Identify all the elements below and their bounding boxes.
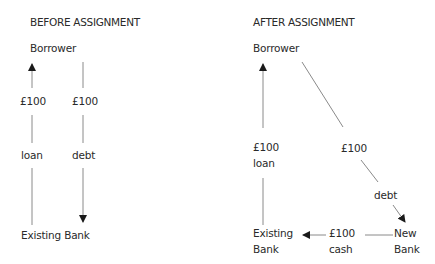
before-title: BEFORE ASSIGNMENT: [30, 16, 140, 29]
after-existing-bank-line2: Bank: [253, 243, 279, 256]
after-debt-amount: £100: [341, 142, 367, 155]
after-cash-amount: £100: [329, 227, 355, 240]
after-cash-label: cash: [329, 243, 353, 256]
before-debt-amount: £100: [72, 95, 98, 108]
after-new-bank-line1: New: [394, 227, 416, 240]
after-title: AFTER ASSIGNMENT: [253, 16, 354, 29]
before-debt-label: debt: [72, 149, 95, 162]
before-loan-label: loan: [21, 149, 43, 162]
after-new-bank-line2: Bank: [394, 243, 420, 256]
after-debt-label: debt: [374, 189, 397, 202]
before-borrower-node: Borrower: [30, 42, 76, 55]
before-existing-bank-node: Existing Bank: [21, 229, 90, 242]
after-borrower-node: Borrower: [253, 42, 299, 55]
diagram-connectors: [0, 0, 435, 264]
after-existing-bank-line1: Existing: [253, 227, 293, 240]
before-loan-amount: £100: [20, 95, 46, 108]
after-loan-amount: £100: [253, 141, 279, 154]
after-loan-label: loan: [253, 157, 275, 170]
